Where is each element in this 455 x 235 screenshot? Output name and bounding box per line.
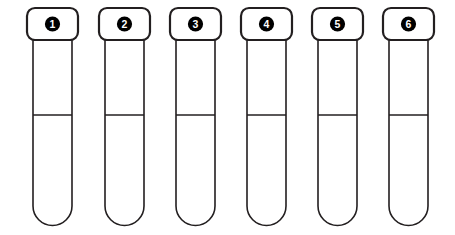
test-tube-rack: 123456: [0, 0, 455, 235]
tube-number-label: 6: [406, 18, 412, 30]
tube-body: [105, 40, 144, 226]
tube-body: [33, 40, 72, 226]
test-tube[interactable]: 1: [24, 0, 81, 235]
test-tube[interactable]: 5: [309, 0, 366, 235]
diagram-canvas: 123456: [0, 0, 455, 235]
tube-number-label: 4: [264, 18, 270, 30]
test-tube[interactable]: 6: [380, 0, 437, 235]
test-tube[interactable]: 4: [238, 0, 295, 235]
tube-number-label: 1: [50, 18, 56, 30]
test-tube[interactable]: 3: [167, 0, 224, 235]
tube-body: [389, 40, 428, 226]
tube-number-label: 3: [193, 18, 199, 30]
tube-number-label: 2: [122, 18, 128, 30]
tube-body: [176, 40, 215, 226]
test-tube[interactable]: 2: [96, 0, 153, 235]
tube-body: [318, 40, 357, 226]
tube-number-label: 5: [335, 18, 341, 30]
tube-body: [247, 40, 286, 226]
